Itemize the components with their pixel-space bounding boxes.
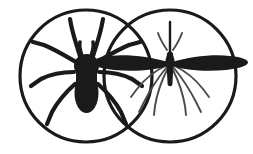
spider-body-joint xyxy=(76,62,97,88)
logo-container: Spider and Mosquito Emblem Spider Mosqui… xyxy=(0,0,253,154)
mosquito-abdomen xyxy=(167,66,174,86)
spider-mosquito-emblem xyxy=(0,0,253,154)
mosquito-head xyxy=(167,51,173,58)
